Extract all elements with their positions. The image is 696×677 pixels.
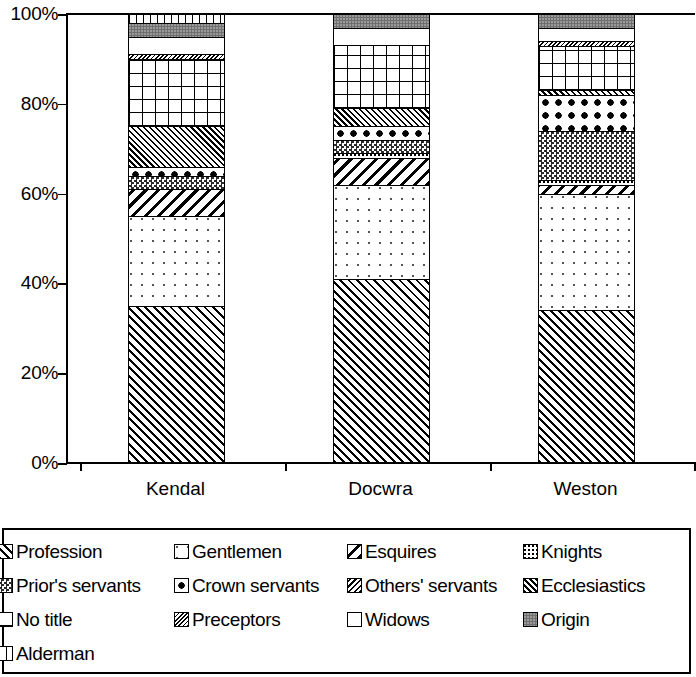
- legend-swatch-icon: [0, 612, 13, 627]
- bar-docwra: [333, 14, 430, 463]
- legend-item: Ecclesiastics: [523, 575, 693, 596]
- legend-label: Ecclesiastics: [541, 575, 645, 596]
- legend-label: Gentlemen: [192, 541, 282, 562]
- bar-segment: [129, 14, 224, 23]
- legend-label: Origin: [541, 609, 590, 630]
- x-axis-category-label: Weston: [488, 478, 683, 500]
- legend-swatch-icon: [174, 544, 189, 559]
- x-axis-category-label: Kendal: [78, 478, 273, 500]
- legend-label: Esquires: [365, 541, 436, 562]
- bar-segment: [334, 126, 429, 139]
- legend-label: Crown servants: [192, 575, 319, 596]
- legend-item: Others' servants: [347, 575, 523, 596]
- legend-item: Crown servants: [174, 575, 347, 596]
- y-axis-tick-label: 40%: [0, 273, 58, 292]
- bar-segment: [129, 189, 224, 216]
- legend-swatch-icon: [0, 578, 13, 593]
- legend-row: ProfessionGentlemenEsquiresKnights: [0, 534, 693, 568]
- y-axis-tick-label: 20%: [0, 363, 58, 382]
- y-axis-tick-label: 100%: [0, 4, 58, 23]
- legend-item: No title: [0, 609, 174, 630]
- bar-segment: [539, 185, 634, 194]
- chart-legend: ProfessionGentlemenEsquiresKnightsPrior'…: [2, 528, 691, 674]
- legend-swatch-icon: [174, 578, 189, 593]
- y-axis-tick-label: 80%: [0, 94, 58, 113]
- bar-segment: [334, 185, 429, 279]
- legend-swatch-icon: [0, 544, 13, 559]
- y-axis-tick-label: 0%: [0, 453, 58, 472]
- bar-segment: [129, 167, 224, 176]
- bar-segment: [539, 131, 634, 180]
- legend-label: Others' servants: [365, 575, 497, 596]
- legend-item: Knights: [523, 541, 693, 562]
- x-axis-tick: [80, 462, 82, 471]
- bar-segment: [129, 216, 224, 306]
- legend-item: Preceptors: [174, 609, 347, 630]
- bar-segment: [334, 108, 429, 126]
- legend-row: Alderman: [0, 636, 693, 670]
- legend-label: Profession: [16, 541, 102, 562]
- legend-label: Knights: [541, 541, 602, 562]
- bar-kendal: [128, 14, 225, 463]
- legend-label: No title: [16, 609, 72, 630]
- legend-label: Alderman: [16, 643, 95, 664]
- bar-segment: [539, 46, 634, 91]
- bar-segment: [539, 310, 634, 463]
- bar-segment: [129, 306, 224, 463]
- bar-segment: [539, 14, 634, 27]
- bar-weston: [538, 14, 635, 463]
- bar-segment: [334, 45, 429, 108]
- legend-row: No titlePreceptorsWidowsOrigin: [0, 602, 693, 636]
- legend-label: Widows: [365, 609, 429, 630]
- x-axis-category-label: Docwra: [283, 478, 478, 500]
- bar-segment: [129, 126, 224, 166]
- legend-label: Prior's servants: [16, 575, 141, 596]
- legend-swatch-icon: [523, 612, 538, 627]
- legend-swatch-icon: [0, 646, 13, 661]
- bar-segment: [334, 140, 429, 153]
- legend-item: Alderman: [0, 643, 174, 664]
- bar-segment: [129, 176, 224, 189]
- legend-item: Origin: [523, 609, 693, 630]
- bar-segment: [334, 279, 429, 463]
- x-axis-tick: [694, 462, 696, 471]
- legend-swatch-icon: [523, 544, 538, 559]
- legend-swatch-icon: [347, 612, 362, 627]
- legend-item: Profession: [0, 541, 174, 562]
- x-axis-tick: [285, 462, 287, 471]
- bar-segment: [334, 158, 429, 185]
- legend-label: Preceptors: [192, 609, 280, 630]
- legend-item: Prior's servants: [0, 575, 174, 596]
- plot-area: [66, 14, 695, 463]
- x-axis-tick: [490, 462, 492, 471]
- y-axis-tick-label: 60%: [0, 184, 58, 203]
- legend-item: Widows: [347, 609, 523, 630]
- bar-segment: [129, 23, 224, 36]
- y-axis-tick: [58, 463, 67, 465]
- bar-segment: [129, 37, 224, 55]
- legend-swatch-icon: [347, 544, 362, 559]
- bar-segment: [334, 14, 429, 27]
- bar-segment: [334, 28, 429, 46]
- bar-segment: [539, 95, 634, 131]
- legend-swatch-icon: [523, 578, 538, 593]
- legend-row: Prior's servantsCrown servantsOthers' se…: [0, 568, 693, 602]
- legend-item: Gentlemen: [174, 541, 347, 562]
- stacked-bar-chart: 100%80%60%40%20%0% KendalDocwraWeston: [0, 0, 695, 520]
- bar-segment: [129, 59, 224, 126]
- bar-segment: [539, 28, 634, 41]
- legend-swatch-icon: [347, 578, 362, 593]
- legend-swatch-icon: [174, 612, 189, 627]
- legend-item: Esquires: [347, 541, 523, 562]
- bar-segment: [539, 194, 634, 311]
